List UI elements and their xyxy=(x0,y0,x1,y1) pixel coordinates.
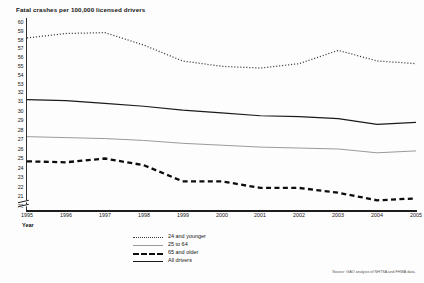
legend-item[interactable]: 24 and younger xyxy=(133,233,298,241)
legend-swatch-icon xyxy=(133,250,163,257)
legend-swatch-icon xyxy=(133,242,163,249)
x-tick-label: 1996 xyxy=(60,212,72,219)
x-tick-label: 2002 xyxy=(293,212,305,219)
source-note: Source: GAO analysis of NHTSA and FHWA d… xyxy=(333,269,416,274)
series-line-all-drivers xyxy=(27,100,416,125)
chart-legend: 24 and younger25 to 6465 and olderAll dr… xyxy=(133,233,298,265)
legend-item-label: All drivers xyxy=(168,256,192,266)
series-line-25-to-64 xyxy=(27,137,416,153)
x-tick-label: 2000 xyxy=(216,212,228,219)
x-axis-tick-labels: 1995199619971998199920002001200220032004… xyxy=(0,212,424,224)
x-tick-label: 1997 xyxy=(99,212,111,219)
chart-figure: Fatal crashes per 100,000 licensed drive… xyxy=(0,0,424,283)
x-tick-label: 2005 xyxy=(410,212,422,219)
x-tick-label: 2001 xyxy=(254,212,266,219)
legend-item[interactable]: 25 to 64 xyxy=(133,241,298,249)
x-tick-label: 2004 xyxy=(371,212,383,219)
series-line-24-and-younger xyxy=(27,33,416,68)
x-tick-label: 1998 xyxy=(138,212,150,219)
x-axis-title: Year xyxy=(22,222,34,229)
x-tick-label: 1999 xyxy=(177,212,189,219)
legend-swatch-icon xyxy=(133,258,163,265)
legend-item[interactable]: All drivers xyxy=(133,257,298,265)
series-line-65-and-older xyxy=(27,159,416,201)
legend-item[interactable]: 65 and older xyxy=(133,249,298,257)
legend-swatch-icon xyxy=(133,234,163,241)
x-tick-label: 2003 xyxy=(332,212,344,219)
x-tick-label: 1995 xyxy=(21,212,33,219)
